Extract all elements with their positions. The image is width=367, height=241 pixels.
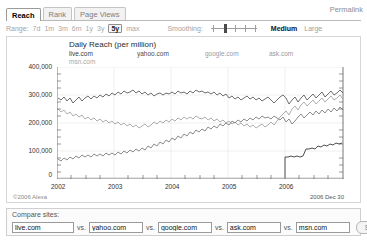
compare-sites-label: Compare sites: <box>12 211 59 218</box>
site-input-1[interactable] <box>12 222 74 233</box>
range-option-1y[interactable]: 1y <box>86 25 93 32</box>
vs-separator: vs. <box>77 224 86 231</box>
tab-rank[interactable]: Rank <box>43 7 73 20</box>
x-tick-2006: 2006 <box>279 183 293 190</box>
series-ask <box>58 107 343 161</box>
tab-reach[interactable]: Reach <box>6 8 41 21</box>
range-option-5y[interactable]: 5y <box>108 24 122 33</box>
legend-item-live[interactable]: live.com <box>69 50 93 57</box>
copyright-notice: ©2006 Alexa <box>13 194 47 200</box>
range-option-3m[interactable]: 3m <box>58 25 68 32</box>
chart-plot <box>57 67 344 179</box>
submit-button[interactable]: Submit <box>356 221 367 234</box>
vs-separator: vs. <box>215 224 224 231</box>
range-option-max[interactable]: max <box>126 25 139 32</box>
legend-item-google[interactable]: google.com <box>205 50 239 57</box>
legend-item-ask[interactable]: ask.com <box>269 50 293 57</box>
y-tick-0: 0 <box>48 171 52 178</box>
vs-separator: vs. <box>146 224 155 231</box>
size-option-medium[interactable]: Medium <box>271 25 297 32</box>
range-option-6m[interactable]: 6m <box>72 25 82 32</box>
smoothing-slider[interactable] <box>211 24 257 33</box>
tab-bar: Reach Rank Page Views <box>6 7 361 21</box>
y-tick-300000: 300,000 <box>29 91 53 98</box>
chart-title: Daily Reach (per million) <box>69 40 156 49</box>
series-yahoo <box>58 90 343 104</box>
size-option-large[interactable]: Large <box>304 25 322 32</box>
vs-separator: vs. <box>284 224 293 231</box>
range-option-1m[interactable]: 1m <box>44 25 54 32</box>
y-axis-labels: 400,000 300,000 200,000 100,000 0 <box>7 63 55 183</box>
slider-tick <box>235 25 236 32</box>
range-option-3y[interactable]: 3y <box>97 25 104 32</box>
x-axis-ticks <box>71 175 328 179</box>
y-tick-200000: 200,000 <box>29 119 53 126</box>
x-tick-2005: 2005 <box>222 183 236 190</box>
site-input-5[interactable] <box>296 222 350 233</box>
y-tick-400000: 400,000 <box>29 63 53 70</box>
alexa-traffic-panel: Reach Rank Page Views Permalink Range: 7… <box>0 0 367 241</box>
compare-inputs-row: vs. vs. vs. vs. Submit <box>12 221 367 234</box>
x-tick-2002: 2002 <box>51 183 65 190</box>
slider-tick <box>255 25 256 32</box>
slider-track <box>211 28 257 29</box>
site-input-4[interactable] <box>227 222 281 233</box>
slider-knob[interactable] <box>224 24 227 33</box>
slider-tick <box>245 25 246 32</box>
y-tick-100000: 100,000 <box>29 147 53 154</box>
legend-item-msn[interactable]: msn.com <box>69 58 95 65</box>
x-tick-2003: 2003 <box>108 183 122 190</box>
permalink-link[interactable]: Permalink <box>330 5 363 14</box>
x-tick-2004: 2004 <box>165 183 179 190</box>
smoothing-label: Smoothing: <box>167 25 202 32</box>
range-option-7d[interactable]: 7d <box>33 25 41 32</box>
chart-panel: Daily Reach (per million) live.com yahoo… <box>6 36 361 203</box>
site-input-2[interactable] <box>89 222 143 233</box>
range-label: Range: <box>6 25 29 32</box>
slider-tick <box>213 25 214 32</box>
legend-item-yahoo[interactable]: yahoo.com <box>137 50 169 57</box>
series-live <box>285 143 342 179</box>
smoothing-control: Smoothing: <box>167 24 270 33</box>
site-input-3[interactable] <box>158 222 212 233</box>
chart-end-date: 2006 Dec 30 <box>310 194 344 200</box>
chart-controls: Range: 7d 1m 3m 6m 1y 3y 5y max Smoothin… <box>6 22 361 35</box>
x-axis-labels: 2002 2003 2004 2005 2006 <box>47 183 347 193</box>
tab-page-views[interactable]: Page Views <box>74 7 125 20</box>
compare-sites-form: Compare sites: vs. vs. vs. vs. Submit <box>6 208 361 236</box>
grid-lines <box>57 67 344 151</box>
